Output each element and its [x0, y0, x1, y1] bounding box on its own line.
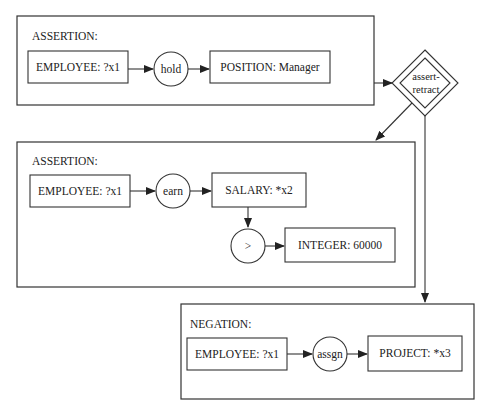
assertion-block-1: ASSERTION: EMPLOYEE: ?x1 hold POSITION: …: [17, 16, 374, 105]
svg-text:hold: hold: [161, 63, 182, 75]
concept-employee[interactable]: EMPLOYEE: ?x1: [187, 338, 287, 370]
svg-text:INTEGER: 60000: INTEGER: 60000: [298, 239, 382, 251]
edge-to-assertion-2: [376, 103, 412, 140]
relation-hold[interactable]: hold: [154, 52, 188, 86]
svg-text:EMPLOYEE: ?x1: EMPLOYEE: ?x1: [38, 185, 122, 197]
svg-text:retract: retract: [413, 84, 440, 95]
svg-text:EMPLOYEE: ?x1: EMPLOYEE: ?x1: [36, 61, 120, 73]
concept-project[interactable]: PROJECT: *x3: [368, 336, 462, 371]
relation-greater-than[interactable]: >: [231, 229, 265, 263]
concept-employee[interactable]: EMPLOYEE: ?x1: [30, 175, 130, 207]
relation-assgn[interactable]: assgn: [313, 337, 347, 371]
svg-text:>: >: [245, 240, 252, 252]
concept-employee[interactable]: EMPLOYEE: ?x1: [28, 51, 128, 83]
assert-retract-operator[interactable]: assert- retract: [392, 50, 458, 116]
svg-text:EMPLOYEE: ?x1: EMPLOYEE: ?x1: [195, 348, 279, 360]
diagram-canvas: ASSERTION: EMPLOYEE: ?x1 hold POSITION: …: [0, 0, 493, 417]
block-title: NEGATION:: [190, 318, 251, 330]
svg-text:PROJECT: *x3: PROJECT: *x3: [379, 347, 451, 359]
concept-integer[interactable]: INTEGER: 60000: [285, 228, 395, 262]
block-title: ASSERTION:: [32, 155, 98, 167]
concept-salary[interactable]: SALARY: *x2: [212, 173, 306, 207]
relation-earn[interactable]: earn: [156, 174, 190, 208]
svg-text:SALARY: *x2: SALARY: *x2: [225, 184, 293, 196]
concept-position[interactable]: POSITION: Manager: [210, 51, 330, 83]
svg-text:POSITION: Manager: POSITION: Manager: [220, 61, 319, 74]
svg-text:assgn: assgn: [317, 348, 343, 361]
svg-text:assert-: assert-: [412, 71, 440, 82]
block-title: ASSERTION:: [32, 30, 98, 42]
negation-block: NEGATION: EMPLOYEE: ?x1 assgn PROJECT: *…: [181, 304, 474, 399]
assertion-block-2: ASSERTION: EMPLOYEE: ?x1 earn SALARY: *x…: [17, 142, 415, 287]
svg-text:earn: earn: [163, 185, 183, 197]
